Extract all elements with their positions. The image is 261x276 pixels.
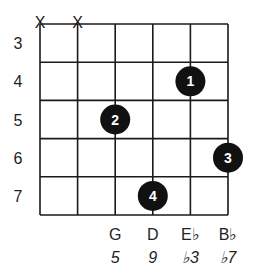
finger-dot: 4 bbox=[138, 181, 168, 211]
note-name-label: E♭ bbox=[181, 226, 200, 243]
finger-dot: 1 bbox=[175, 66, 205, 96]
fret-numbers: 34567 bbox=[14, 35, 23, 205]
finger-number: 2 bbox=[111, 112, 119, 128]
finger-number: 1 bbox=[187, 73, 195, 89]
fret-number-label: 4 bbox=[14, 73, 23, 90]
fret-number-label: 6 bbox=[14, 150, 23, 167]
finger-dot: 2 bbox=[100, 105, 130, 135]
interval-label: 5 bbox=[111, 249, 120, 266]
interval-label: ♭7 bbox=[220, 249, 238, 266]
muted-string-markers: XX bbox=[35, 14, 84, 31]
interval-label: 9 bbox=[148, 249, 157, 266]
chord-diagram: XX 34567 1234 G5D9E♭♭3B♭♭7 bbox=[0, 0, 261, 276]
fret-number-label: 5 bbox=[14, 112, 23, 129]
mute-x-icon: X bbox=[35, 14, 46, 31]
finger-number: 4 bbox=[149, 188, 157, 204]
fretboard-grid bbox=[40, 24, 228, 215]
finger-number: 3 bbox=[224, 150, 232, 166]
interval-label: ♭3 bbox=[182, 249, 199, 266]
note-name-label: B♭ bbox=[219, 226, 238, 243]
fret-number-label: 7 bbox=[14, 188, 23, 205]
note-name-label: G bbox=[109, 226, 121, 243]
fret-number-label: 3 bbox=[14, 35, 23, 52]
finger-dot: 3 bbox=[213, 143, 243, 173]
note-labels: G5D9E♭♭3B♭♭7 bbox=[109, 226, 238, 266]
mute-x-icon: X bbox=[72, 14, 83, 31]
note-name-label: D bbox=[147, 226, 159, 243]
